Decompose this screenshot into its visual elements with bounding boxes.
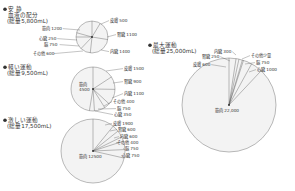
leader-line xyxy=(232,52,236,55)
slice-label: 脳 750 xyxy=(125,145,139,152)
chart-total: (総量25,000mL) xyxy=(152,47,197,55)
slice-label: 脳 750 xyxy=(117,105,131,112)
leader-line xyxy=(107,35,116,37)
slice-label: 皮膚 600 xyxy=(193,61,211,68)
leader-line xyxy=(101,50,109,52)
pie-center xyxy=(92,150,94,152)
leader-line xyxy=(63,29,80,30)
slice-label: その他 600 xyxy=(33,50,55,57)
center-label: 筋肉 12500 xyxy=(79,153,102,160)
pie-center xyxy=(91,36,93,38)
slice-label: 皮膚 1900 xyxy=(113,120,133,127)
slice-label: 腎臓 600 xyxy=(118,126,136,133)
slice-label: 脳 750 xyxy=(44,41,58,48)
center-value: 4500 xyxy=(79,87,90,92)
slice-label: 脳 750 xyxy=(256,59,270,66)
bullet-icon xyxy=(148,43,152,47)
leader-line xyxy=(57,39,77,40)
chart-total: (総量17,500mL) xyxy=(7,122,52,130)
slice-label: 内臓 600 xyxy=(120,133,138,140)
leader-line xyxy=(106,69,123,71)
slice-label: 腎臓 250 xyxy=(202,53,220,60)
slice-label: 内臓 1100 xyxy=(124,90,144,97)
slice-label: 内臓 1400 xyxy=(110,48,130,55)
pie-chart-1: 軽い運動(総量9,500mL)筋肉4500皮膚 1500腎臓 900内臓 110… xyxy=(3,63,144,118)
pie-center xyxy=(92,88,94,90)
bullet-icon xyxy=(3,65,7,69)
blood-distribution-charts: 安 静血液の配分(総量5,800mL)皮膚 500腎臓 1100内臓 1400筋… xyxy=(0,0,295,191)
leader-line xyxy=(113,82,123,83)
slice-label: 腎臓 900 xyxy=(124,78,142,85)
slice-label: 皮膚 1500 xyxy=(124,65,144,72)
bullet-icon xyxy=(3,118,7,122)
leader-line xyxy=(54,51,83,54)
pie-chart-2: 激しい運動(総量17,500mL)筋肉 12500皮膚 1900腎臓 600内臓… xyxy=(3,116,139,183)
slice-label: 皮膚 500 xyxy=(110,17,128,24)
pie-center xyxy=(228,104,230,106)
pie-chart-0: 安 静血液の配分(総量5,800mL)皮膚 500腎臓 1100内臓 1400筋… xyxy=(3,5,137,57)
leader-line xyxy=(101,21,109,24)
slice-label: 心臓 750 xyxy=(122,152,140,159)
slice-label: 腎臓 1100 xyxy=(117,31,137,38)
leader-line xyxy=(60,45,79,46)
bullet-icon xyxy=(3,7,7,11)
leader-line xyxy=(242,56,250,59)
slice-label: その他 400 xyxy=(113,98,135,105)
slice-label: 心臓 350 xyxy=(114,111,132,118)
chart-total: (総量9,500mL) xyxy=(7,69,48,77)
slice-label: 心臓 250 xyxy=(39,35,57,42)
leader-line xyxy=(95,111,113,115)
slice-label: その他 400 xyxy=(117,139,139,146)
chart-total: (総量5,800mL) xyxy=(7,17,48,25)
pie-chart-3: 最大運動(総量25,000mL)筋肉 22,000内臓 300腎臓 250皮膚 … xyxy=(148,41,277,152)
center-label: 筋肉 22,000 xyxy=(215,107,239,114)
slice-label: その他少量 xyxy=(251,52,271,59)
slice-label: 筋肉 1200 xyxy=(42,25,62,32)
slice-label: 心臓 1000 xyxy=(257,66,277,73)
